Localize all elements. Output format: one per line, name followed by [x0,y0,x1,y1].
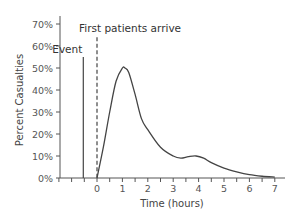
event-label: Event [52,43,82,55]
casualty-curve [97,67,275,178]
x-tick-label: 2 [145,183,151,194]
y-tick-label: 60% [32,41,53,52]
x-tick-label: 0 [94,183,100,194]
x-tick-label: 1 [119,183,125,194]
x-axis-title: Time (hours) [139,198,204,209]
y-tick-label: 40% [32,85,53,96]
x-tick-label: 4 [196,183,202,194]
x-ticks: 01234567 [59,178,278,194]
y-tick-label: 30% [32,107,53,118]
y-axis-title: Percent Casualties [14,54,25,146]
y-tick-label: 50% [32,63,53,74]
x-tick-label: 6 [246,183,252,194]
chart: 0%10%20%30%40%50%60%70% 01234567 Percent… [0,0,305,219]
x-tick-label: 5 [221,183,227,194]
y-tick-label: 20% [32,129,53,140]
y-tick-label: 10% [32,151,53,162]
x-tick-label: 7 [272,183,278,194]
annotations: EventFirst patients arrive [52,22,181,178]
x-tick-label: 3 [170,183,176,194]
first-patients-label: First patients arrive [79,22,181,34]
y-tick-label: 0% [38,173,53,184]
y-tick-label: 70% [32,19,53,30]
